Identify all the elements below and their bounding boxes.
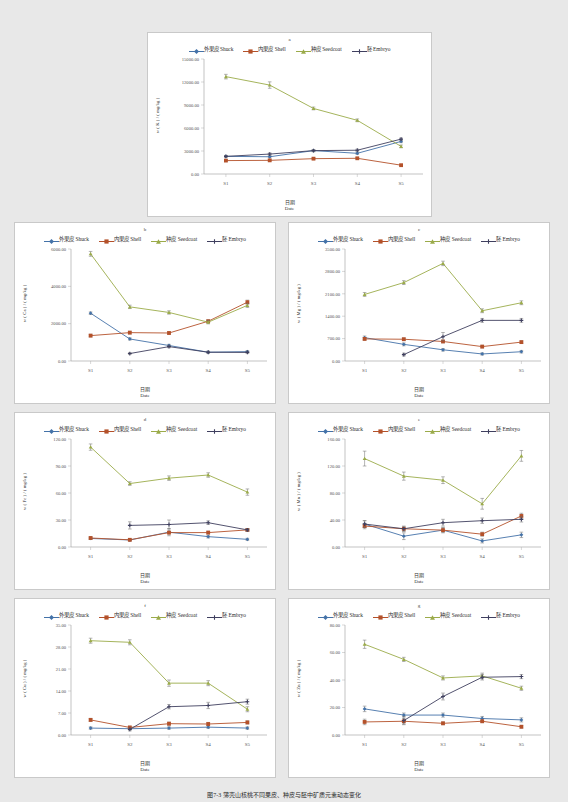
legend-c: 外果皮 Shuck内果皮 Shell种皮 Seedcoat胚 Embryo: [289, 235, 549, 243]
legend-label: 种皮 Seedcoat: [166, 425, 197, 433]
svg-text:0.00: 0.00: [58, 359, 67, 364]
svg-text:S2: S2: [401, 742, 407, 747]
legend-symbol-icon: [156, 239, 160, 243]
svg-text:3500.00: 3500.00: [325, 247, 341, 252]
legend-marker-icon: [44, 239, 57, 240]
svg-text:S4: S4: [206, 554, 212, 559]
svg-text:40.00: 40.00: [330, 518, 341, 523]
chart-svg-c: 0.00700.001400.002100.002800.003500.00S1…: [289, 243, 551, 391]
legend-marker-icon: [481, 615, 494, 616]
legend-symbol-icon: [49, 615, 53, 619]
svg-text:160.00: 160.00: [327, 437, 340, 442]
legend-symbol-icon: [486, 615, 490, 619]
legend-item-1: 内果皮 Shell: [99, 235, 141, 243]
legend-symbol-icon: [301, 49, 305, 53]
svg-text:2100.00: 2100.00: [325, 292, 341, 297]
legend-item-0: 外果皮 Shuck: [44, 235, 89, 243]
legend-symbol-icon: [378, 615, 382, 619]
legend-item-1: 内果皮 Shell: [99, 611, 141, 619]
legend-label: 胚 Embryo: [222, 425, 246, 433]
legend-symbol-icon: [194, 49, 198, 53]
legend-item-1: 内果皮 Shell: [373, 425, 415, 433]
legend-label: 内果皮 Shell: [114, 611, 141, 619]
svg-text:S1: S1: [362, 554, 368, 559]
svg-text:S4: S4: [355, 181, 361, 186]
legend-marker-icon: [207, 615, 220, 616]
legend-label: 内果皮 Shell: [388, 235, 415, 243]
legend-label: 内果皮 Shell: [114, 235, 141, 243]
svg-text:28.00: 28.00: [56, 645, 67, 650]
legend-label: 胚 Embryo: [222, 235, 246, 243]
legend-symbol-icon: [156, 615, 160, 619]
plot-a: 0.003000.006000.009000.0012000.0015000.0…: [148, 53, 433, 204]
legend-symbol-icon: [49, 429, 53, 433]
svg-text:S2: S2: [401, 368, 407, 373]
legend-marker-icon: [373, 429, 386, 430]
legend-item-0: 外果皮 Shuck: [318, 235, 363, 243]
legend-item-3: 胚 Embryo: [352, 45, 391, 53]
legend-marker-icon: [99, 429, 112, 430]
svg-text:S3: S3: [440, 368, 446, 373]
legend-marker-icon: [373, 615, 386, 616]
legend-item-1: 内果皮 Shell: [99, 425, 141, 433]
xaxis-label-a: 日期 Date: [148, 200, 431, 213]
legend-marker-icon: [318, 615, 331, 616]
legend-marker-icon: [243, 49, 256, 50]
legend-item-3: 胚 Embryo: [207, 235, 246, 243]
legend-symbol-icon: [378, 239, 382, 243]
panel-letter-b: b: [15, 227, 275, 232]
legend-symbol-icon: [323, 239, 327, 243]
svg-text:12000.00: 12000.00: [182, 80, 200, 85]
legend-marker-icon: [425, 429, 438, 430]
svg-text:21.00: 21.00: [56, 667, 67, 672]
svg-text:40.00: 40.00: [330, 678, 341, 683]
svg-text:S4: S4: [480, 554, 486, 559]
legend-label: 外果皮 Shuck: [333, 425, 363, 433]
svg-text:S5: S5: [245, 742, 251, 747]
legend-marker-icon: [425, 615, 438, 616]
xaxis-label-en-a: Date: [148, 206, 431, 212]
legend-symbol-icon: [212, 239, 216, 243]
svg-text:0.00: 0.00: [191, 172, 200, 177]
svg-text:60.00: 60.00: [56, 491, 67, 496]
svg-text:S4: S4: [206, 742, 212, 747]
legend-item-0: 外果皮 Shuck: [318, 425, 363, 433]
panel-letter-a: a: [148, 37, 431, 42]
svg-text:S5: S5: [519, 368, 525, 373]
figure-page: a 外果皮 Shuck内果皮 Shell种皮 Seedcoat胚 Embryo …: [0, 0, 568, 802]
chart-panel-a: a 外果皮 Shuck内果皮 Shell种皮 Seedcoat胚 Embryo …: [147, 32, 432, 217]
legend-label: 种皮 Seedcoat: [440, 425, 471, 433]
legend-item-1: 内果皮 Shell: [373, 235, 415, 243]
xaxis-label-en-c: Date: [289, 393, 549, 399]
chart-panel-d: d 外果皮 Shuck内果皮 Shell种皮 Seedcoat胚 Embryo …: [14, 412, 276, 590]
legend-label: 种皮 Seedcoat: [311, 45, 342, 53]
panel-letter-e: e: [289, 417, 549, 422]
legend-symbol-icon: [104, 429, 108, 433]
chart-svg-f: 0.007.0014.0021.0028.0035.00S1S2S3S4S5: [15, 619, 277, 765]
legend-item-3: 胚 Embryo: [481, 235, 520, 243]
svg-text:S4: S4: [480, 742, 486, 747]
svg-text:S3: S3: [440, 742, 446, 747]
svg-text:700.00: 700.00: [327, 336, 340, 341]
legend-label: 内果皮 Shell: [388, 611, 415, 619]
panel-letter-g: g: [289, 603, 549, 608]
xaxis-label-en-d: Date: [15, 579, 275, 585]
legend-item-3: 胚 Embryo: [481, 425, 520, 433]
legend-item-2: 种皮 Seedcoat: [151, 425, 197, 433]
chart-panel-e: e 外果皮 Shuck内果皮 Shell种皮 Seedcoat胚 Embryo …: [288, 412, 550, 590]
svg-text:30.00: 30.00: [56, 518, 67, 523]
svg-text:S3: S3: [311, 181, 317, 186]
yaxis-label-d: w ( Fe ) / ( mg/kg ): [22, 457, 27, 527]
legend-symbol-icon: [248, 49, 252, 53]
svg-text:9000.00: 9000.00: [184, 103, 200, 108]
legend-marker-icon: [99, 239, 112, 240]
xaxis-label-en-b: Date: [15, 393, 275, 399]
svg-text:S1: S1: [88, 368, 94, 373]
svg-text:S1: S1: [223, 181, 229, 186]
legend-symbol-icon: [323, 615, 327, 619]
legend-marker-icon: [481, 429, 494, 430]
legend-marker-icon: [318, 239, 331, 240]
legend-label: 种皮 Seedcoat: [166, 611, 197, 619]
xaxis-label-en-e: Date: [289, 579, 549, 585]
legend-label: 种皮 Seedcoat: [440, 235, 471, 243]
